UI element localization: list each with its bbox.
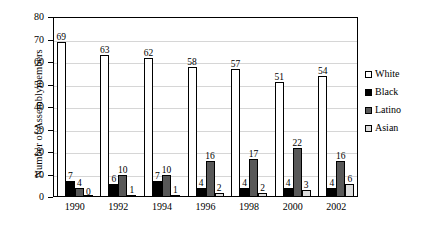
bar-latino [293,148,302,198]
x-tick-label: 2000 [271,201,315,212]
bar-value-label: 10 [162,165,172,175]
bar-white [275,82,284,197]
bar-wrapper: 57 [231,17,240,197]
legend-swatch-icon [365,107,372,114]
y-tick-mark [48,197,53,198]
bar-wrapper: 4 [327,17,336,197]
bar-wrapper: 22 [293,17,302,197]
bar-black [240,188,249,197]
y-tick-label: 60 [0,57,44,67]
bar-wrapper: 17 [249,17,258,197]
legend-item-white[interactable]: White [365,69,401,79]
bar-black [153,181,162,197]
bar-asian [302,190,311,197]
bar-value-label: 4 [199,178,204,188]
bar-value-label: 4 [286,178,291,188]
bar-wrapper: 6 [109,17,118,197]
bar-asian [258,193,267,198]
legend-item-asian[interactable]: Asian [365,123,401,133]
bar-wrapper: 58 [188,17,197,197]
bar-wrapper: 51 [275,17,284,197]
bar-asian [345,184,354,198]
y-tick-label: 0 [0,192,44,202]
bar-white [188,67,197,198]
bar-group: 584162 [184,17,228,197]
bar-value-label: 6 [347,174,352,184]
bar-latino [118,175,127,198]
bar-wrapper: 1 [171,17,180,197]
y-tick-label: 30 [0,125,44,135]
bar-black [66,181,75,197]
bar-white [57,42,66,197]
x-tick-label: 2002 [314,201,358,212]
bar-asian [215,193,224,198]
legend-item-black[interactable]: Black [365,87,401,97]
legend: WhiteBlackLatinoAsian [365,69,401,133]
bar-groups: 6974063610162710158416257417251422354416… [53,17,358,197]
bar-group: 514223 [271,17,315,197]
bar-latino [249,159,258,197]
bar-wrapper: 4 [75,17,84,197]
bar-value-label: 62 [144,48,154,58]
bar-wrapper: 7 [66,17,75,197]
bar-value-label: 7 [68,171,73,181]
bar-group: 69740 [53,17,97,197]
bar-wrapper: 62 [144,17,153,197]
bar-group: 574172 [227,17,271,197]
bar-value-label: 69 [57,32,67,42]
legend-label: Asian [375,123,398,133]
bar-asian [171,195,180,197]
bar-black [284,188,293,197]
bar-latino [336,161,345,197]
bar-value-label: 4 [77,178,82,188]
bar-wrapper: 4 [284,17,293,197]
bar-group: 544166 [314,17,358,197]
bar-latino [206,161,215,197]
bar-wrapper: 63 [100,17,109,197]
bar-value-label: 10 [118,165,128,175]
bar-value-label: 16 [205,151,215,161]
bar-value-label: 4 [242,178,247,188]
x-tick-label: 1996 [184,201,228,212]
bar-value-label: 16 [336,151,346,161]
bar-wrapper: 10 [118,17,127,197]
y-tick-label: 50 [0,80,44,90]
bar-value-label: 2 [260,183,265,193]
bar-value-label: 51 [274,72,284,82]
legend-swatch-icon [365,125,372,132]
bar-value-label: 22 [292,138,302,148]
y-tick-label: 70 [0,35,44,45]
bar-wrapper: 54 [318,17,327,197]
bar-wrapper: 6 [345,17,354,197]
legend-swatch-icon [365,71,372,78]
x-tick-label: 1992 [97,201,141,212]
bar-white [318,76,327,198]
bar-wrapper: 4 [240,17,249,197]
bar-value-label: 57 [231,59,241,69]
bar-value-label: 4 [329,178,334,188]
bar-value-label: 54 [318,66,328,76]
bar-wrapper: 4 [197,17,206,197]
bar-white [144,58,153,198]
x-axis-labels: 1990199219941996199820002002 [53,201,358,212]
bar-value-label: 2 [217,183,222,193]
bar-wrapper: 3 [302,17,311,197]
legend-item-latino[interactable]: Latino [365,105,401,115]
bar-group: 627101 [140,17,184,197]
bar-latino [162,175,171,198]
y-tick-label: 20 [0,147,44,157]
bar-wrapper: 0 [84,17,93,197]
bar-value-label: 1 [173,185,178,195]
y-tick-label: 40 [0,102,44,112]
bar-value-label: 17 [249,149,259,159]
x-tick-label: 1998 [227,201,271,212]
bar-wrapper: 16 [336,17,345,197]
bar-wrapper: 2 [215,17,224,197]
x-tick-label: 1994 [140,201,184,212]
bar-value-label: 7 [155,171,160,181]
bar-value-label: 63 [100,45,110,55]
y-tick-label: 10 [0,170,44,180]
bar-black [327,188,336,197]
bar-group: 636101 [97,17,141,197]
bar-wrapper: 2 [258,17,267,197]
